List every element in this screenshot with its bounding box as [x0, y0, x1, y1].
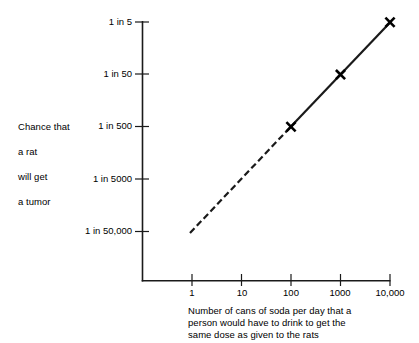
- x-axis-title-line-2: person would have to drink to get the: [188, 317, 414, 329]
- data-point-marker-10000: [385, 18, 394, 27]
- plot-canvas: [0, 0, 419, 343]
- data-point-marker-100: [286, 122, 295, 131]
- series-dashed-extrapolation: [190, 127, 291, 234]
- data-point-marker-1000: [336, 70, 345, 79]
- x-axis-title: Number of cans of soda per day that a pe…: [188, 305, 414, 340]
- chart-figure: Chance that a rat will get a tumor 1 in …: [0, 0, 419, 343]
- x-axis-title-line-1: Number of cans of soda per day that a: [188, 305, 414, 317]
- x-axis-title-line-3: same dose as given to the rats: [188, 329, 414, 341]
